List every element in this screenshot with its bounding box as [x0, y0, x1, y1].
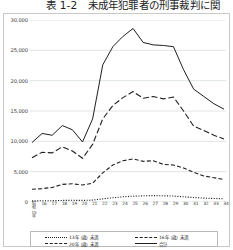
x-tick-label: 17 — [52, 202, 57, 207]
line-chart-svg — [30, 20, 226, 202]
x-tick-label: 18 — [62, 202, 67, 207]
y-tick-label: 30,000 — [2, 17, 28, 23]
legend-item[interactable]: 合計 — [135, 241, 167, 247]
x-tick-label: 26 — [143, 202, 148, 207]
legend-item[interactable]: 13年（歳）未満 — [45, 234, 98, 240]
series-line-0 — [32, 28, 224, 142]
series-line-2 — [32, 159, 224, 189]
legend-swatch-solid-icon — [135, 242, 157, 246]
x-tick-label: 24 — [122, 202, 127, 207]
chart-title-strip: 表 1-2 未成年犯罪者の刑事裁判に関 — [0, 0, 233, 13]
x-tick-label: 27 — [153, 202, 158, 207]
y-tick-label: 10,000 — [2, 138, 28, 144]
x-tick-label: 20 — [82, 202, 87, 207]
chart-page: 表 1-2 未成年犯罪者の刑事裁判に関 30,00025,00020,00015… — [0, 0, 233, 250]
x-tick-label: 19 — [72, 202, 77, 207]
x-tick-label: 16 — [41, 202, 46, 207]
x-tick-label: 21 — [92, 202, 97, 207]
legend-label: 20年（歳）未満 — [69, 241, 98, 247]
legend-label: 16年（歳）未満 — [159, 234, 188, 240]
legend-swatch-dotted-icon — [45, 235, 67, 239]
x-tick-label: 23 — [112, 202, 117, 207]
y-tick-label: 0 — [2, 199, 28, 205]
x-tick-label: 22 — [102, 202, 107, 207]
y-tick-label: 20,000 — [2, 78, 28, 84]
legend-swatch-dashed-icon — [45, 242, 67, 246]
legend-label: 13年（歳）未満 — [69, 234, 98, 240]
x-tick-label: 29 — [173, 202, 178, 207]
x-tick-label: 昭 和 15 年 — [32, 202, 37, 220]
x-tick-label: 31 — [193, 202, 198, 207]
y-tick-label: 5,000 — [2, 169, 28, 175]
x-axis-labels: 昭 和 15 年16171819202122232425262728293031… — [30, 202, 228, 232]
y-tick-label: 25,000 — [2, 47, 28, 53]
legend-swatch-long-dash-icon — [135, 235, 157, 239]
x-tick-label: 32 — [203, 202, 208, 207]
legend-item[interactable]: 20年（歳）未満 — [45, 241, 98, 247]
y-tick-label: 15,000 — [2, 108, 28, 114]
x-tick-label: 34 — [223, 202, 228, 207]
plot-area — [30, 20, 226, 202]
x-tick-label: 25 — [132, 202, 137, 207]
legend-label: 合計 — [159, 241, 167, 247]
series-line-1 — [32, 92, 224, 159]
x-tick-label: 30 — [183, 202, 188, 207]
legend-item[interactable]: 16年（歳）未満 — [135, 234, 188, 240]
chart-legend: 13年（歳）未満16年（歳）未満20年（歳）未満合計 — [30, 231, 218, 247]
page-title: 表 1-2 未成年犯罪者の刑事裁判に関 — [46, 0, 220, 12]
x-tick-label: 28 — [163, 202, 168, 207]
x-tick-label: 33 — [213, 202, 218, 207]
